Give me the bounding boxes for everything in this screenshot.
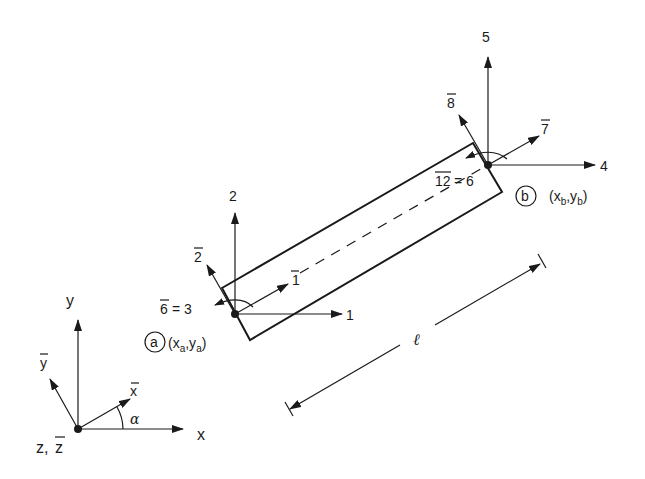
node-b-dof-7bar-arrow [488,136,539,165]
node-a-dof-2bar-arrow [207,265,235,314]
node-b-dof-rot-label: 12 [435,173,451,189]
node-b: 4 5 8 7 12 = 6 b (xb,yb) [435,29,608,207]
length-dimension: ℓ [285,254,546,416]
node-b-point [484,161,492,169]
angle-alpha-arc [117,407,123,429]
node-a-marker-label: a [150,334,158,350]
length-tick-lower [285,402,293,416]
node-a-point [231,310,239,318]
node-b-dof-4-label: 4 [600,158,608,174]
node-a-coordinates: (xa,ya) [168,335,206,354]
node-a-rotation-arrow [215,300,253,307]
global-y-label: y [66,292,74,309]
origin-point [74,425,82,433]
length-tick-upper [538,254,546,268]
node-b-coordinates: (xb,yb) [549,188,587,207]
local-x-label: x [130,383,137,399]
node-a-dof-2-label: 2 [229,188,237,204]
node-b-dof-8bar-label: 8 [447,95,455,111]
node-a-dof-rot-label: 6 [160,301,168,317]
z-label: z, [36,439,48,456]
node-a-dof-rot-eq: = 3 [172,301,192,317]
local-y-label: y [40,355,47,371]
length-arrow-lower [290,345,400,409]
node-b-dof-rot-eq: = 6 [454,173,474,189]
node-a-dof-2bar-label: 2 [194,249,202,265]
local-y-axis [50,379,78,429]
node-a-dof-1-label: 1 [346,307,354,323]
length-label: ℓ [413,330,420,349]
node-b-marker-label: b [521,188,529,204]
node-b-dof-8bar-arrow [459,115,488,165]
angle-alpha-label: α [130,411,140,427]
node-b-dof-5-label: 5 [482,29,490,45]
beam-element-diagram: x y x y α z, z 1 2 2 1 6 = 3 a (xa,ya) [0,0,645,479]
global-x-label: x [197,426,205,443]
length-arrow-upper [435,264,540,325]
node-b-dof-7bar-label: 7 [541,121,549,137]
node-a-dof-1bar-arrow [235,284,288,314]
zbar-label: z [55,439,63,456]
node-a-dof-1bar-label: 1 [292,272,300,288]
